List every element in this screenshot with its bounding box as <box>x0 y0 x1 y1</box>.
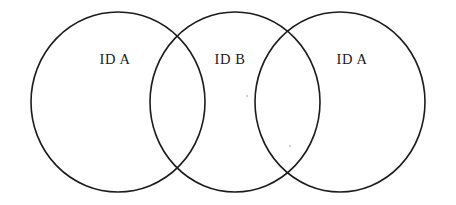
circle-middle-label: ID B <box>215 51 246 67</box>
diagram-background <box>0 0 456 205</box>
circle-left-label: ID A <box>100 51 131 67</box>
diagram-canvas: ID A ID B ID A <box>0 0 456 205</box>
overlapping-circles-diagram: ID A ID B ID A <box>0 0 456 205</box>
scan-speck <box>289 145 291 147</box>
scan-speck <box>246 95 248 97</box>
circle-right-label: ID A <box>337 51 368 67</box>
